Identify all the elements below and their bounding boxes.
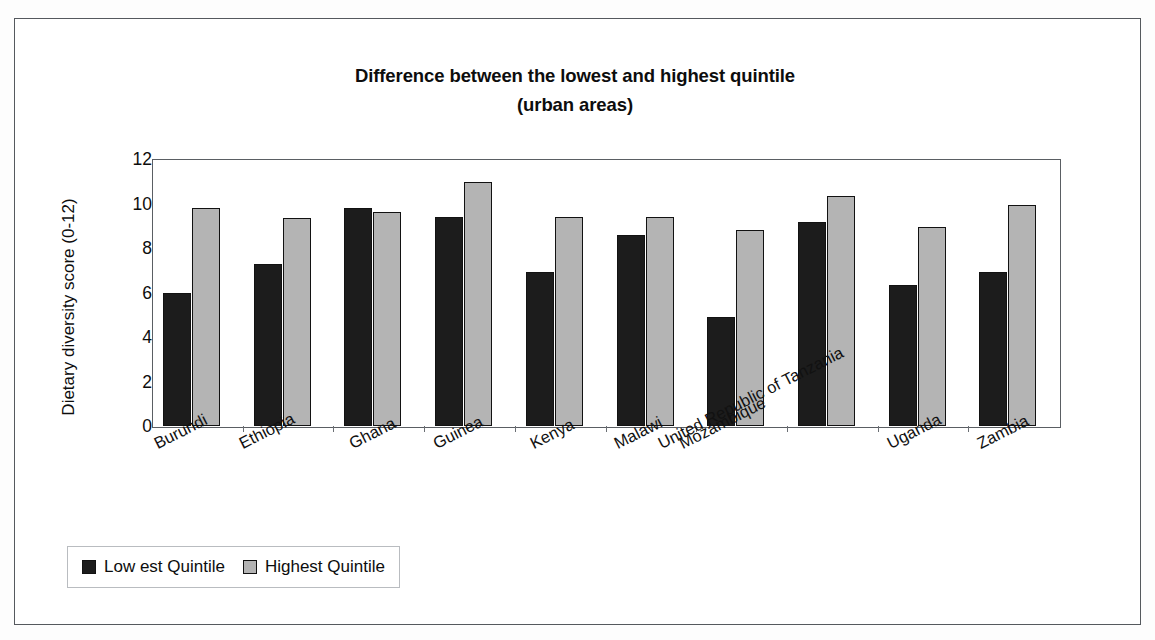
- bar-lowest-quintile[interactable]: [617, 235, 645, 426]
- bar-highest-quintile[interactable]: [646, 217, 674, 426]
- chart-title: Difference between the lowest and highes…: [135, 61, 1015, 119]
- bar-group: [243, 159, 334, 426]
- bar-highest-quintile[interactable]: [464, 182, 492, 426]
- bar-group: [424, 159, 515, 426]
- bar-highest-quintile[interactable]: [918, 227, 946, 426]
- bar-lowest-quintile[interactable]: [979, 272, 1007, 426]
- bar-lowest-quintile[interactable]: [344, 208, 372, 426]
- chart-title-line1: Difference between the lowest and highes…: [355, 65, 795, 86]
- y-tick-label-6: 6: [108, 282, 152, 303]
- bar-group: [787, 159, 878, 426]
- bar-lowest-quintile[interactable]: [889, 285, 917, 426]
- bar-group: [878, 159, 969, 426]
- bar-group: [606, 159, 697, 426]
- y-tick-label-10: 10: [108, 193, 152, 214]
- bar-lowest-quintile[interactable]: [435, 217, 463, 426]
- bar-lowest-quintile[interactable]: [526, 272, 554, 426]
- x-axis-category-labels: BurundiEthiopiaGhanaGuineaKenyaMalawiMoz…: [152, 426, 1059, 546]
- chart-legend[interactable]: Low est QuintileHighest Quintile: [67, 546, 400, 588]
- bar-highest-quintile[interactable]: [555, 217, 583, 426]
- legend-item[interactable]: Highest Quintile: [243, 557, 385, 577]
- y-tick-label-0: 0: [108, 416, 152, 437]
- y-tick-label-12: 12: [108, 149, 152, 170]
- bar-highest-quintile[interactable]: [283, 218, 311, 426]
- bar-group: [152, 159, 243, 426]
- chart-page: Difference between the lowest and highes…: [0, 0, 1155, 640]
- y-tick-label-4: 4: [108, 327, 152, 348]
- chart-title-line2: (urban areas): [135, 90, 1015, 119]
- y-tick-label-8: 8: [108, 238, 152, 259]
- legend-swatch-icon: [82, 560, 96, 574]
- legend-swatch-icon: [243, 560, 257, 574]
- bar-highest-quintile[interactable]: [192, 208, 220, 426]
- legend-label: Low est Quintile: [104, 557, 225, 577]
- bar-highest-quintile[interactable]: [1008, 205, 1036, 426]
- bar-highest-quintile[interactable]: [827, 196, 855, 426]
- legend-label: Highest Quintile: [265, 557, 385, 577]
- legend-item[interactable]: Low est Quintile: [82, 557, 225, 577]
- bar-group: [333, 159, 424, 426]
- y-tick-label-2: 2: [108, 371, 152, 392]
- bar-group: [515, 159, 606, 426]
- figure-border: Difference between the lowest and highes…: [14, 18, 1141, 625]
- y-axis-title: Dietary diversity score (0-12): [59, 157, 79, 457]
- bar-lowest-quintile[interactable]: [254, 264, 282, 426]
- y-axis-tick-labels: 12 10 8 6 4 2 0: [98, 159, 152, 426]
- bars-layer: [152, 159, 1059, 426]
- bar-group: [968, 159, 1059, 426]
- bar-highest-quintile[interactable]: [373, 212, 401, 426]
- bar-lowest-quintile[interactable]: [163, 293, 191, 427]
- bar-lowest-quintile[interactable]: [798, 222, 826, 426]
